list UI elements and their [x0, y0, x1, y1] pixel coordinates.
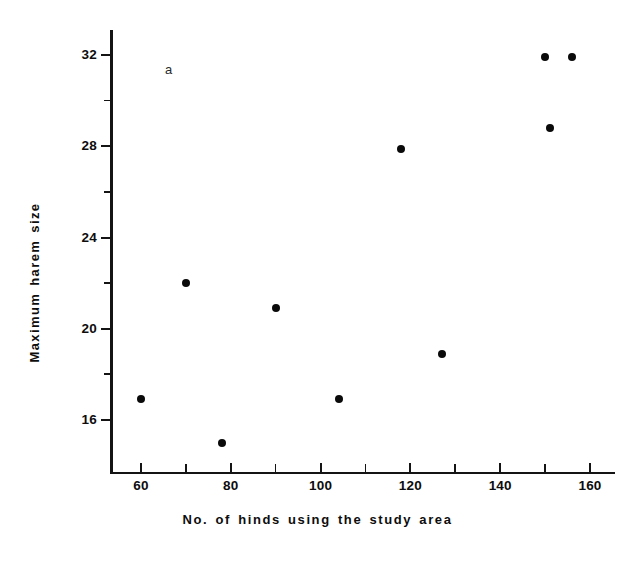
plot-area: 1620242832 6080100120140160 a: [0, 0, 635, 571]
y-axis-tick-label: 32: [59, 48, 97, 62]
data-point: [438, 350, 446, 358]
y-axis-tick-label: 16: [59, 413, 97, 427]
data-point: [335, 395, 343, 403]
y-axis-tick: [101, 145, 111, 147]
x-axis-minor-tick: [544, 464, 546, 472]
data-point: [397, 145, 405, 153]
x-axis-tick-label: 160: [567, 479, 613, 493]
x-axis-tick: [140, 463, 142, 473]
x-axis-tick: [499, 463, 501, 473]
x-axis-tick: [320, 463, 322, 473]
y-axis-minor-tick: [104, 373, 111, 375]
y-axis-tick-label: 28: [59, 139, 97, 153]
x-axis-minor-tick: [185, 464, 187, 472]
y-axis-minor-tick: [104, 282, 111, 284]
data-point: [137, 395, 145, 403]
x-axis-tick-label: 60: [118, 479, 164, 493]
data-point: [546, 124, 554, 132]
x-axis-tick: [409, 463, 411, 473]
x-axis-minor-tick: [454, 464, 456, 472]
data-point: [218, 439, 226, 447]
y-axis-tick: [101, 328, 111, 330]
y-axis-tick: [101, 54, 111, 56]
x-axis-tick-label: 100: [298, 479, 344, 493]
y-axis-title: Maximum harem size: [27, 133, 42, 433]
data-point: [182, 279, 190, 287]
x-axis-title: No. of hinds using the study area: [0, 512, 635, 527]
x-axis-tick-label: 140: [477, 479, 523, 493]
x-axis-minor-tick: [275, 464, 277, 472]
x-axis-tick-label: 80: [208, 479, 254, 493]
y-axis-tick: [101, 419, 111, 421]
x-axis-tick: [230, 463, 232, 473]
panel-label: a: [165, 62, 172, 77]
y-axis-minor-tick: [104, 191, 111, 193]
y-axis-minor-tick: [104, 100, 111, 102]
x-axis-tick: [589, 463, 591, 473]
data-point: [541, 53, 549, 61]
x-axis-minor-tick: [365, 464, 367, 472]
data-point: [272, 304, 280, 312]
y-axis-tick-label: 24: [59, 231, 97, 245]
y-axis-tick-label: 20: [59, 322, 97, 336]
y-axis-tick: [101, 237, 111, 239]
y-axis-line: [110, 30, 113, 474]
x-axis-tick-label: 120: [387, 479, 433, 493]
data-point: [568, 53, 576, 61]
scatter-plot-figure: 1620242832 6080100120140160 a No. of hin…: [0, 0, 635, 571]
